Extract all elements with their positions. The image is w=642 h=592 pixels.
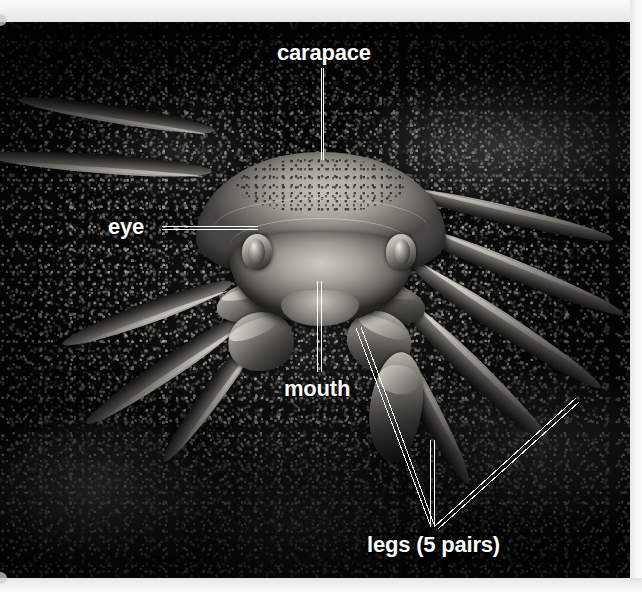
label-legs: legs (5 pairs) [367, 534, 500, 556]
page-margin-top [0, 0, 642, 22]
label-eye: eye [108, 216, 144, 238]
crab-photograph [0, 22, 630, 578]
label-mouth: mouth [284, 378, 350, 400]
label-carapace: carapace [277, 42, 371, 64]
page-margin-right [630, 0, 642, 592]
figure-page: carapace eye mouth legs (5 pairs) [0, 0, 642, 592]
photo-vignette [0, 22, 630, 578]
page-margin-bottom [0, 578, 642, 592]
